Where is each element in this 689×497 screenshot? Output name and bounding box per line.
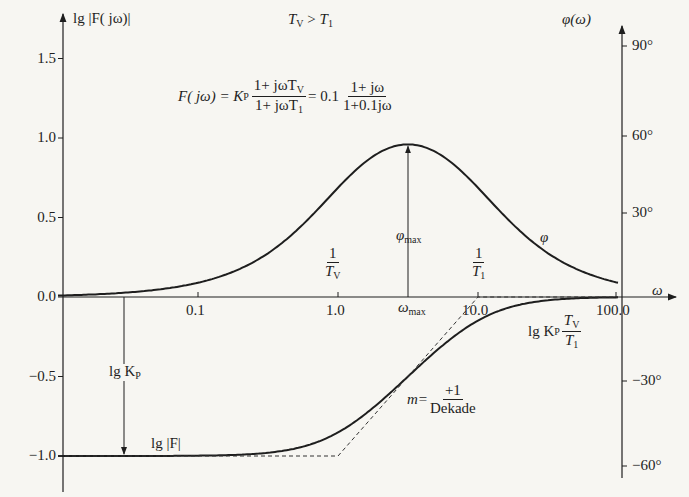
x-tick-label: 0.1: [186, 303, 205, 318]
corner-freq-tv-label: 1TV: [323, 246, 343, 281]
condition-label: TV > T1: [288, 12, 333, 29]
left-tick-label: 0.0: [37, 289, 56, 304]
left-tick-label: 1.0: [37, 130, 56, 145]
left-axis-title: lg |F( jω)|: [73, 11, 131, 26]
corner-freq-t1-label: 1T1: [470, 246, 487, 281]
right-tick-label: 30°: [632, 205, 653, 220]
left-tick-label: 1.5: [37, 51, 56, 66]
plot-area: [0, 0, 689, 497]
right-tick-label: −30°: [632, 373, 661, 388]
x-tick-label: 100.0: [596, 303, 630, 318]
left-tick-label: 0.5: [37, 210, 56, 225]
right-axis-title: φ(ω): [562, 12, 591, 27]
omega-max-label: ωmax: [398, 300, 426, 317]
right-tick-label: −60°: [632, 458, 661, 473]
formula-fraction-2: 1+ jω 1+0.1jω: [341, 80, 394, 113]
phi-max-label: φmax: [396, 228, 422, 245]
right-tick-label: 90°: [632, 38, 653, 53]
lg-kp-label: lg KP: [109, 364, 141, 381]
right-tick-label: 60°: [632, 128, 653, 143]
left-tick-label: −1.0: [29, 448, 56, 463]
high-freq-gain-label: lg KP TVT1: [528, 313, 581, 350]
slope-label: m= +1Dekade: [407, 383, 478, 416]
x-tick-label: 10.0: [462, 303, 488, 318]
magnitude-curve-label: lg |F|: [151, 436, 181, 451]
transfer-function-formula: F( jω) = KP 1+ jωTV 1+ jωT1 = 0.1 1+ jω …: [178, 78, 394, 115]
x-axis-title: ω: [652, 283, 663, 298]
formula-fraction-1: 1+ jωTV 1+ jωT1: [252, 78, 306, 115]
left-tick-label: −0.5: [29, 369, 56, 384]
phase-curve-label: φ: [540, 230, 548, 245]
bode-diagram: lg |F( jω)| φ(ω) ω TV > T1 F( jω) = KP 1…: [0, 0, 689, 497]
x-tick-label: 1.0: [326, 303, 345, 318]
